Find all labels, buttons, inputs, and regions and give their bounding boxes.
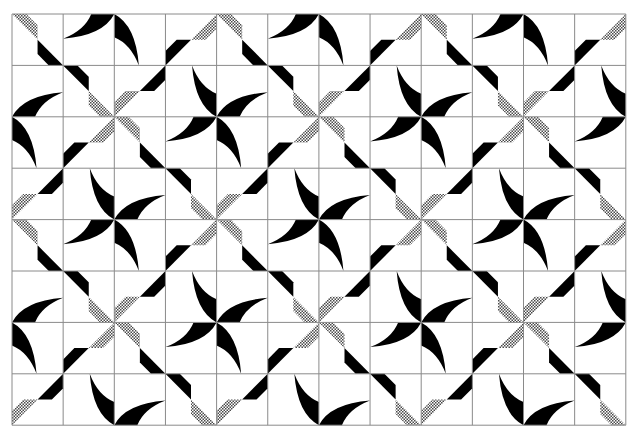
tessellation-figure (0, 0, 640, 435)
